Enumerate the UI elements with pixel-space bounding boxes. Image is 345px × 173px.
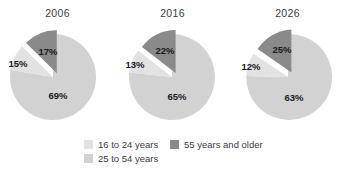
pie-chart-2016: 2016 22% 13% 65% [115,0,230,135]
pie-slices [129,30,215,120]
pie-slices [10,30,96,120]
legend-item-55-and-older[interactable]: 55 years and older [170,139,263,150]
legend-item-25-to-54[interactable]: 25 to 54 years [84,153,158,164]
legend-swatch-icon [84,140,93,149]
slice-label-16-to-24: 13% [125,59,145,70]
pie-chart-2006: 2006 17% 15% 69% [0,0,115,135]
slice-label-55-and-older: 17% [38,46,58,57]
chart-legend: 16 to 24 years 25 to 54 years 55 years a… [84,138,324,172]
pie-chart-figure: 2006 17% 15% 69% 2016 [0,0,345,173]
pie-charts-row: 2006 17% 15% 69% 2016 [0,0,345,135]
slice-label-25-to-54: 65% [167,91,187,102]
pie-chart-title: 2016 [115,7,230,19]
legend-item-label: 55 years and older [184,139,263,150]
slice-label-16-to-24: 12% [241,61,261,72]
legend-swatch-icon [84,154,93,163]
pie-chart-title: 2006 [0,7,115,19]
slice-label-55-and-older: 25% [272,44,292,55]
slice-label-25-to-54: 63% [284,92,304,103]
slice-label-25-to-54: 69% [48,90,68,101]
pie-chart-title: 2026 [230,7,345,19]
pie-graphic-2006: 17% 15% 69% [0,22,115,122]
legend-item-label: 16 to 24 years [98,139,158,150]
legend-swatch-icon [170,140,179,149]
legend-item-16-to-24[interactable]: 16 to 24 years [84,139,158,150]
pie-graphic-2026: 25% 12% 63% [230,22,345,122]
slice-label-55-and-older: 22% [155,45,175,56]
pie-chart-2026: 2026 25% 12% 63% [230,0,345,135]
pie-graphic-2016: 22% 13% 65% [115,22,230,122]
pie-slices [246,29,332,120]
slice-label-16-to-24: 15% [8,58,28,69]
legend-item-label: 25 to 54 years [98,153,158,164]
